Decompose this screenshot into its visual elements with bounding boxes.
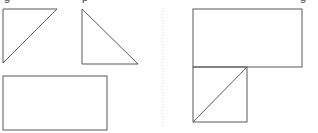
shapes-svg (0, 0, 318, 133)
right-triangle-upper-middle (82, 9, 138, 64)
rectangle-top-right-panel (193, 9, 302, 67)
diagonal-in-square (193, 67, 247, 122)
right-shape-group (193, 9, 302, 122)
rectangle-lower-left (3, 76, 107, 130)
right-triangle-upper-left (3, 9, 57, 63)
left-shape-group (3, 9, 138, 130)
geometry-figure-canvas: g p g (0, 0, 318, 133)
